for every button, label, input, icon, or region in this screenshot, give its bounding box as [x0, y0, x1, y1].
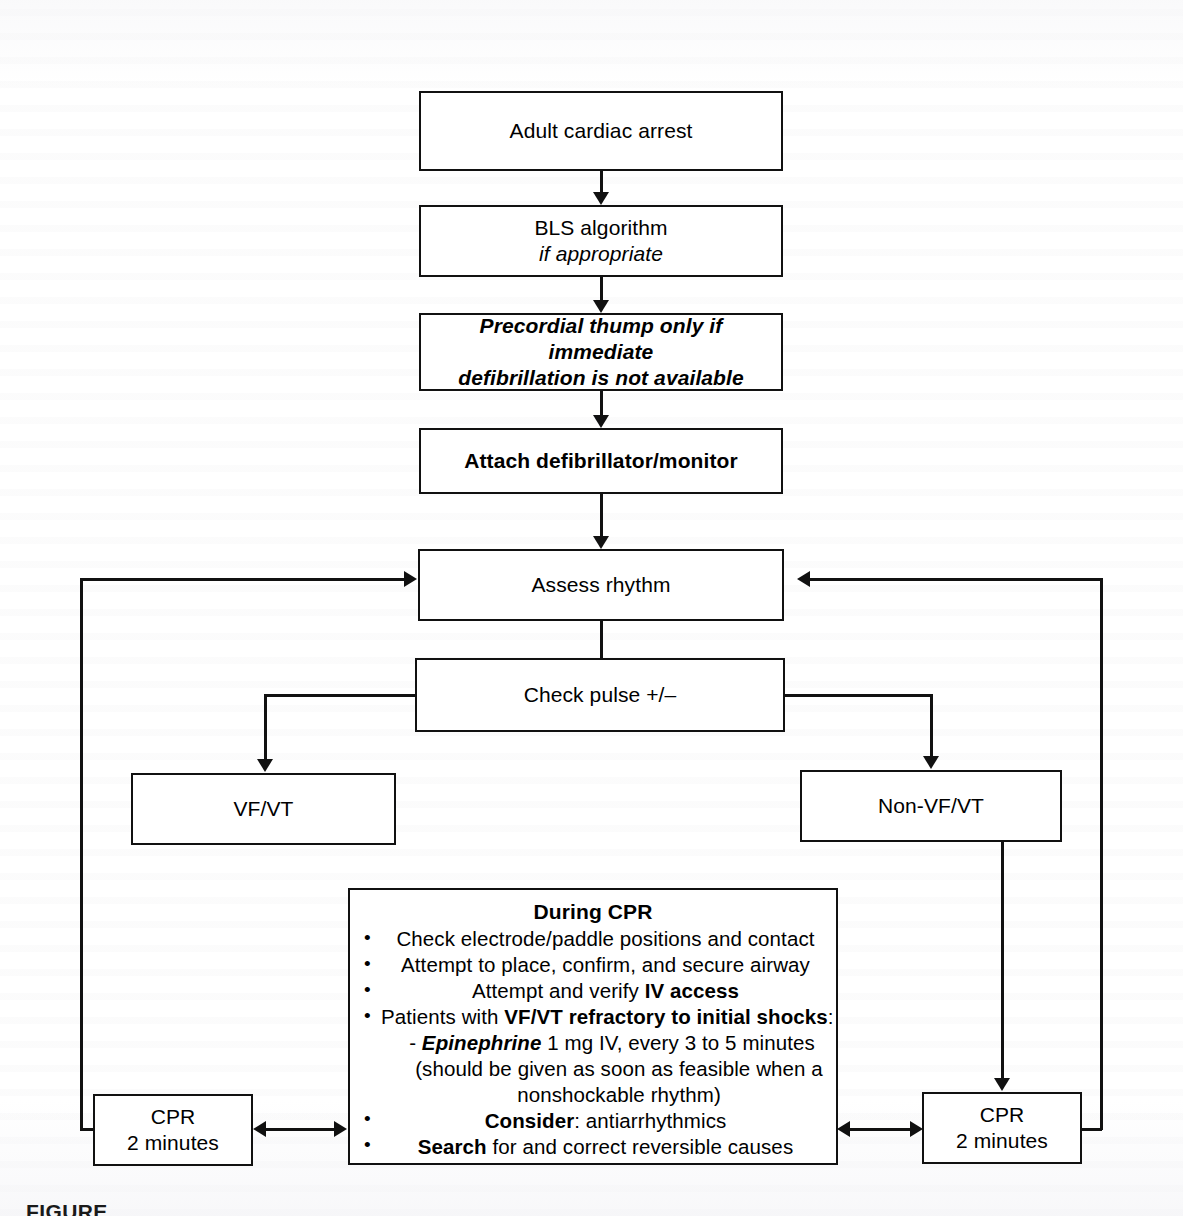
- arrowhead-nonvfvt-to-cpr-right: [994, 1078, 1010, 1091]
- during-cpr-sub-nonshockable: nonshockable rhythm): [394, 1082, 830, 1108]
- connector-checkpulse-right-vertical: [930, 694, 933, 757]
- arrowhead-checkpulse-to-nonvfvt: [923, 756, 939, 769]
- connector-assess-to-checkpulse: [600, 621, 603, 658]
- node-precordial-thump-line1: Precordial thump only if immediate: [480, 314, 723, 363]
- connector-checkpulse-left-vertical: [264, 694, 267, 760]
- during-cpr-bullet-list: Check electrode/paddle positions and con…: [350, 926, 836, 1159]
- during-cpr-bullet-airway: Attempt to place, confirm, and secure ai…: [364, 952, 830, 978]
- node-precordial-thump-line2: defibrillation is not available: [458, 366, 744, 389]
- node-precordial-thump-text: Precordial thump only if immediate defib…: [421, 313, 781, 392]
- during-cpr-bullet-refractory-pre: Patients with: [381, 1005, 504, 1028]
- during-cpr-bullet-iv-access: Attempt and verify IV access: [364, 978, 830, 1004]
- node-assess-rhythm[interactable]: Assess rhythm: [418, 549, 784, 621]
- during-cpr-bullet-iv-access-pre: Attempt and verify: [472, 979, 645, 1002]
- during-cpr-sub-feasible: (should be given as soon as feasible whe…: [394, 1056, 830, 1082]
- connector-bls-to-thump: [600, 277, 603, 301]
- connector-arrest-to-bls: [600, 171, 603, 193]
- cardiac-arrest-flowchart: Adult cardiac arrest BLS algorithm if ap…: [0, 0, 1183, 1216]
- node-check-pulse-label: Check pulse +/–: [516, 682, 685, 708]
- node-cpr-left-line1: CPR: [151, 1105, 196, 1128]
- connector-left-rail-vertical: [80, 578, 83, 1130]
- node-attach-defibrillator-label: Attach defibrillator/monitor: [456, 448, 745, 474]
- node-attach-defibrillator-monitor[interactable]: Attach defibrillator/monitor: [419, 428, 783, 494]
- node-cpr-right[interactable]: CPR 2 minutes: [922, 1092, 1082, 1164]
- node-bls-algorithm-text: BLS algorithm if appropriate: [526, 215, 675, 268]
- arrowhead-duringcpr-to-cprleft: [253, 1121, 266, 1137]
- during-cpr-bullet-refractory: Patients with VF/VT refractory to initia…: [364, 1004, 830, 1108]
- arrowhead-thump-to-defib: [593, 415, 609, 428]
- during-cpr-bullet-iv-access-bold: IV access: [645, 979, 739, 1002]
- node-non-vf-vt[interactable]: Non-VF/VT: [800, 770, 1062, 842]
- node-vf-vt-label: VF/VT: [225, 796, 301, 822]
- node-bls-algorithm-line2: if appropriate: [539, 242, 663, 265]
- connector-thump-to-defib: [600, 391, 603, 415]
- during-cpr-bullet-refractory-post: :: [828, 1005, 834, 1028]
- node-adult-cardiac-arrest-label: Adult cardiac arrest: [502, 118, 701, 144]
- connector-right-rail-vertical: [1100, 578, 1103, 1130]
- during-cpr-sub-epinephrine-dash: -: [409, 1031, 422, 1054]
- arrowhead-bls-to-thump: [593, 300, 609, 313]
- arrowhead-left-rail-to-assess: [404, 571, 417, 587]
- node-cpr-left-line2: 2 minutes: [127, 1131, 219, 1154]
- during-cpr-bullet-consider: Consider: antiarrhythmics: [364, 1108, 830, 1134]
- arrowhead-cprleft-to-duringcpr: [334, 1121, 347, 1137]
- arrowhead-defib-to-assess: [593, 536, 609, 549]
- node-cpr-left[interactable]: CPR 2 minutes: [93, 1094, 253, 1166]
- during-cpr-bullet-electrode-text: Check electrode/paddle positions and con…: [396, 927, 814, 950]
- arrowhead-right-rail-to-assess: [797, 571, 810, 587]
- node-cpr-left-text: CPR 2 minutes: [119, 1104, 227, 1157]
- node-during-cpr-panel[interactable]: During CPR Check electrode/paddle positi…: [348, 888, 838, 1165]
- connector-defib-to-assess: [600, 494, 603, 537]
- during-cpr-title: During CPR: [350, 899, 836, 925]
- node-check-pulse[interactable]: Check pulse +/–: [415, 658, 785, 732]
- during-cpr-sub-epinephrine-dose: 1 mg IV, every 3 to 5 minutes: [541, 1031, 814, 1054]
- arrowhead-cprright-to-duringcpr: [837, 1121, 850, 1137]
- during-cpr-bullet-airway-text: Attempt to place, confirm, and secure ai…: [401, 953, 810, 976]
- node-bls-algorithm[interactable]: BLS algorithm if appropriate: [419, 205, 783, 277]
- connector-nonvfvt-to-cpr-right: [1001, 842, 1004, 1080]
- node-non-vf-vt-label: Non-VF/VT: [870, 793, 992, 819]
- during-cpr-bullet-consider-bold: Consider: [485, 1109, 575, 1132]
- during-cpr-sub-epinephrine: - Epinephrine 1 mg IV, every 3 to 5 minu…: [394, 1030, 830, 1056]
- node-assess-rhythm-label: Assess rhythm: [524, 572, 679, 598]
- connector-right-rail-to-cpr: [1082, 1128, 1102, 1131]
- connector-right-rail-to-assess: [810, 578, 1102, 581]
- node-cpr-right-line1: CPR: [980, 1103, 1025, 1126]
- during-cpr-bullet-search: Search for and correct reversible causes: [364, 1134, 830, 1160]
- node-vf-vt[interactable]: VF/VT: [131, 773, 396, 845]
- arrowhead-arrest-to-bls: [593, 192, 609, 205]
- connector-checkpulse-left-horizontal: [264, 694, 417, 697]
- during-cpr-bullet-refractory-bold: VF/VT refractory to initial shocks: [504, 1005, 828, 1028]
- during-cpr-bullet-electrode: Check electrode/paddle positions and con…: [364, 926, 830, 952]
- arrowhead-checkpulse-to-vfvt: [257, 759, 273, 772]
- during-cpr-bullet-search-post: for and correct reversible causes: [487, 1135, 793, 1158]
- node-cpr-right-line2: 2 minutes: [956, 1129, 1048, 1152]
- connector-duringcpr-to-cprright: [846, 1128, 916, 1131]
- during-cpr-sub-epinephrine-drug: Epinephrine: [422, 1031, 542, 1054]
- during-cpr-bullet-consider-post: : antiarrhythmics: [574, 1109, 726, 1132]
- node-adult-cardiac-arrest[interactable]: Adult cardiac arrest: [419, 91, 783, 171]
- connector-left-rail-to-assess: [80, 578, 405, 581]
- figure-caption: FIGURE: [26, 1200, 108, 1216]
- node-cpr-right-text: CPR 2 minutes: [948, 1102, 1056, 1155]
- during-cpr-sub-list: - Epinephrine 1 mg IV, every 3 to 5 minu…: [381, 1030, 830, 1108]
- connector-cprleft-to-duringcpr: [262, 1128, 340, 1131]
- node-bls-algorithm-line1: BLS algorithm: [534, 216, 667, 239]
- during-cpr-bullet-search-bold: Search: [418, 1135, 487, 1158]
- node-precordial-thump[interactable]: Precordial thump only if immediate defib…: [419, 313, 783, 391]
- connector-checkpulse-right-horizontal: [783, 694, 933, 697]
